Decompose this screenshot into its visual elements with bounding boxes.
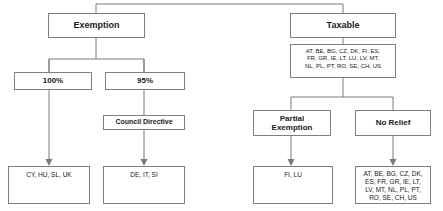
node-hundred-percent[interactable]: 100% bbox=[14, 72, 92, 90]
node-partial-exemption-label: Partial Exemption bbox=[254, 114, 330, 132]
node-no-relief-countries-label: AT, BE, BG, CZ, DK, ES, FR, GR, IE, LT, … bbox=[356, 170, 430, 202]
node-partial-exemption[interactable]: Partial Exemption bbox=[253, 110, 331, 136]
node-hundred-percent-label: 100% bbox=[15, 76, 91, 85]
node-ninetyfive-percent-label: 95% bbox=[106, 76, 184, 85]
node-exemption-label: Exemption bbox=[49, 20, 144, 30]
node-taxable[interactable]: Taxable bbox=[290, 13, 396, 38]
no-relief-arrowhead bbox=[390, 159, 397, 166]
node-taxable-countries-label: AT, BE, BG, CZ, DK, FI, ES, FR, GR, IE, … bbox=[291, 48, 395, 70]
node-exempt-full-countries-label: CY, HU, SL, UK bbox=[9, 171, 89, 178]
node-taxable-countries[interactable]: AT, BE, BG, CZ, DK, FI, ES, FR, GR, IE, … bbox=[290, 44, 396, 78]
node-partial-exemption-countries[interactable]: FI, LU bbox=[253, 166, 333, 204]
flowchart-canvas: Exemption Taxable AT, BE, BG, CZ, DK, FI… bbox=[0, 0, 443, 211]
node-exempt-full-countries[interactable]: CY, HU, SL, UK bbox=[8, 166, 90, 204]
node-ninetyfive-percent[interactable]: 95% bbox=[105, 72, 185, 90]
node-council-directive[interactable]: Council Directive bbox=[103, 115, 185, 130]
node-partial-exemption-countries-label: FI, LU bbox=[254, 171, 332, 178]
council-directive-arrowhead bbox=[141, 159, 148, 166]
hundred-percent-arrowhead bbox=[46, 159, 53, 166]
exemption-split-connector bbox=[49, 59, 144, 72]
node-no-relief[interactable]: No Relief bbox=[355, 110, 431, 136]
node-no-relief-countries[interactable]: AT, BE, BG, CZ, DK, ES, FR, GR, IE, LT, … bbox=[355, 166, 431, 204]
node-exempt-partial-countries[interactable]: DE, IT, SI bbox=[103, 166, 185, 204]
node-taxable-label: Taxable bbox=[291, 20, 395, 30]
node-no-relief-label: No Relief bbox=[356, 118, 430, 127]
taxable-split-connector bbox=[291, 97, 393, 110]
node-exempt-partial-countries-label: DE, IT, SI bbox=[104, 171, 184, 178]
root-split-connector bbox=[96, 4, 343, 13]
node-exemption[interactable]: Exemption bbox=[48, 13, 145, 38]
partial-exemption-arrowhead bbox=[288, 159, 295, 166]
node-council-directive-label: Council Directive bbox=[104, 118, 184, 126]
